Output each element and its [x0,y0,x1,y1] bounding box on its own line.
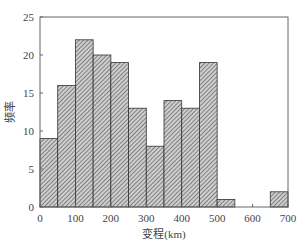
y-tick-label: 5 [29,163,35,175]
x-tick-label: 600 [244,212,261,224]
x-tick-label: 500 [209,212,226,224]
y-tick-label: 0 [29,201,35,213]
histogram-bar [111,63,129,207]
histogram-bar [182,108,200,207]
histogram-bar [75,40,93,207]
x-tick-label: 0 [37,212,43,224]
y-tick-label: 25 [23,11,35,23]
histogram-bar [217,199,235,207]
x-tick-label: 700 [280,212,297,224]
histogram-bars [40,40,288,207]
histogram-bar [129,108,147,207]
histogram-bar [40,139,58,207]
y-tick-label: 20 [23,49,35,61]
y-tick-label: 15 [23,87,35,99]
x-tick-label: 100 [67,212,84,224]
histogram-chart: 0510152025 0100200300400500600700 变程(km)… [0,0,303,247]
histogram-bar [270,192,288,207]
x-axis-label: 变程(km) [142,227,186,241]
y-tick-label: 10 [23,125,35,137]
histogram-bar [93,55,111,207]
x-tick-label: 300 [138,212,155,224]
y-axis-label: 频率 [3,101,16,123]
x-tick-label: 200 [103,212,120,224]
histogram-bar [146,146,164,207]
x-tick-label: 400 [173,212,190,224]
histogram-bar [199,63,217,207]
histogram-bar [58,85,76,207]
histogram-bar [164,101,182,207]
